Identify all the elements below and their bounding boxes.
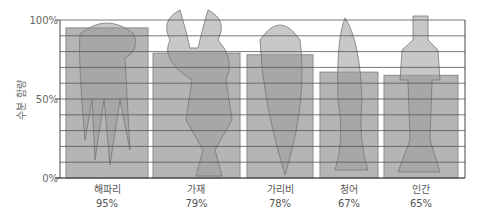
x-label-human-swimmer: 인간65%: [410, 183, 432, 211]
category-value: 67%: [338, 197, 360, 211]
x-label-crayfish: 가재79%: [185, 183, 207, 211]
category-name: 가재: [185, 183, 207, 197]
y-tick-label: 0%: [42, 173, 58, 184]
category-value: 95%: [94, 197, 121, 211]
category-name: 해파리: [94, 183, 121, 197]
category-name: 청어: [338, 183, 360, 197]
y-tick-label: 50%: [36, 94, 58, 105]
category-name: 가리비: [267, 183, 294, 197]
x-label-scallop: 가리비78%: [267, 183, 294, 211]
x-label-herring: 청어67%: [338, 183, 360, 211]
category-name: 인간: [410, 183, 432, 197]
category-value: 65%: [410, 197, 432, 211]
category-value: 78%: [267, 197, 294, 211]
water-content-chart: 수분 함량 0%50%100% 해파리95%가재79%가리비78%청어67%인간…: [0, 0, 488, 216]
x-label-jellyfish: 해파리95%: [94, 183, 121, 211]
y-axis-label: 수분 함량: [13, 80, 28, 119]
y-tick-label: 100%: [29, 15, 58, 26]
category-value: 79%: [185, 197, 207, 211]
